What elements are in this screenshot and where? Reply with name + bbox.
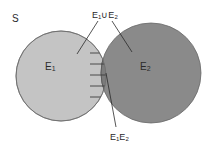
intersection-label: E1E2 xyxy=(110,132,129,142)
venn-diagram: S E1 E2 E1∪E2 E1E2 xyxy=(0,0,212,150)
union-label: E1∪E2 xyxy=(92,10,118,20)
set-e1-circle xyxy=(16,31,106,121)
universe-label: S xyxy=(12,13,19,24)
set-e2-circle xyxy=(101,23,201,123)
